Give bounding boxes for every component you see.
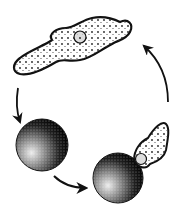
active-amoeba [14, 17, 131, 74]
diagram-canvas [0, 0, 181, 209]
life-cycle-diagram [0, 0, 181, 209]
excysting-amoeba [93, 123, 168, 203]
arrow-to-active [144, 46, 168, 102]
arrow-to-cyst [17, 88, 20, 122]
excysting-nucleus [136, 154, 147, 165]
cyst [16, 119, 68, 171]
arrow-to-excystation [54, 176, 86, 188]
